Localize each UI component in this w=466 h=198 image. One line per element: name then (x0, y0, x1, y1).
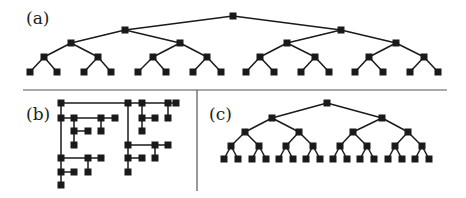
tree-node (364, 143, 371, 150)
tree-node (152, 115, 159, 122)
tree-node (263, 156, 270, 163)
tree-node (85, 155, 92, 162)
tree-node (276, 156, 283, 163)
tree-edge (382, 118, 408, 132)
tree-node (312, 54, 319, 61)
tree-layouts-figure (0, 0, 466, 198)
tree-node (352, 69, 359, 76)
tree-node (152, 142, 159, 149)
tree-node (392, 143, 399, 150)
tree-edge (71, 43, 98, 57)
tree-node (190, 69, 197, 76)
tree-node (303, 156, 310, 163)
tree-node (41, 54, 48, 61)
tree-node (98, 115, 105, 122)
tree-node (283, 143, 290, 150)
tree-node (421, 54, 428, 61)
tree-node (298, 69, 305, 76)
tree-node (98, 155, 105, 162)
tree-node (337, 143, 344, 150)
panel-label-b: (b) (26, 104, 50, 124)
tree-edge (341, 30, 396, 43)
tree-node (235, 156, 242, 163)
tree-node (257, 54, 264, 61)
tree-node (108, 69, 115, 76)
tree-node (204, 54, 211, 61)
tree-edge (233, 16, 341, 30)
tree-edge (353, 118, 382, 132)
tree-node (269, 115, 276, 122)
panel-label-a: (a) (26, 8, 49, 28)
tree-node (152, 155, 159, 162)
panel-label-c: (c) (209, 104, 232, 124)
tree-node (122, 27, 129, 34)
tree-node (435, 69, 442, 76)
tree-node (412, 156, 419, 163)
tree-c-binary-compact (221, 100, 433, 163)
tree-node (243, 69, 250, 76)
tree-node (58, 169, 65, 176)
tree-node (125, 169, 132, 176)
tree-node (177, 40, 184, 47)
tree-node (173, 100, 180, 107)
tree-node (68, 40, 75, 47)
tree-node (98, 128, 105, 135)
tree-node (228, 143, 235, 150)
tree-node (371, 156, 378, 163)
tree-edge (369, 43, 396, 57)
tree-node (71, 115, 78, 122)
tree-node (399, 156, 406, 163)
tree-node (385, 156, 392, 163)
tree-node (242, 129, 249, 136)
tree-node (380, 69, 387, 76)
tree-edge (245, 118, 272, 132)
tree-node (112, 115, 119, 122)
tree-node (218, 69, 225, 76)
tree-edge (125, 16, 233, 30)
tree-node (366, 54, 373, 61)
tree-node (150, 54, 157, 61)
tree-edge (125, 30, 180, 43)
tree-edge (153, 43, 180, 57)
tree-node (393, 40, 400, 47)
tree-node (139, 128, 146, 135)
tree-node (296, 129, 303, 136)
tree-edge (44, 43, 71, 57)
tree-node (426, 156, 433, 163)
tree-node (139, 115, 146, 122)
tree-edge (260, 43, 287, 57)
tree-node (58, 100, 65, 107)
tree-node (317, 156, 324, 163)
tree-node (405, 129, 412, 136)
tree-edge (287, 30, 341, 43)
tree-a-binary-layered (27, 13, 442, 76)
tree-edge (327, 103, 382, 118)
tree-edge (287, 43, 315, 57)
tree-node (221, 156, 228, 163)
tree-node (407, 69, 414, 76)
tree-node (230, 13, 237, 20)
tree-edge (272, 103, 327, 118)
tree-node (58, 115, 65, 122)
tree-node (357, 156, 364, 163)
tree-node (54, 69, 61, 76)
tree-node (135, 69, 142, 76)
tree-node (330, 156, 337, 163)
tree-node (95, 54, 102, 61)
tree-node (125, 155, 132, 162)
tree-node (85, 128, 92, 135)
tree-node (71, 169, 78, 176)
tree-node (58, 155, 65, 162)
tree-node (338, 27, 345, 34)
tree-node (163, 69, 170, 76)
tree-node (344, 156, 351, 163)
tree-node (249, 156, 256, 163)
tree-edge (396, 43, 424, 57)
tree-node (81, 69, 88, 76)
tree-node (350, 129, 357, 136)
tree-node (58, 182, 65, 189)
tree-node (85, 169, 92, 176)
tree-edge (71, 30, 125, 43)
tree-node (165, 100, 172, 107)
tree-node (379, 115, 386, 122)
